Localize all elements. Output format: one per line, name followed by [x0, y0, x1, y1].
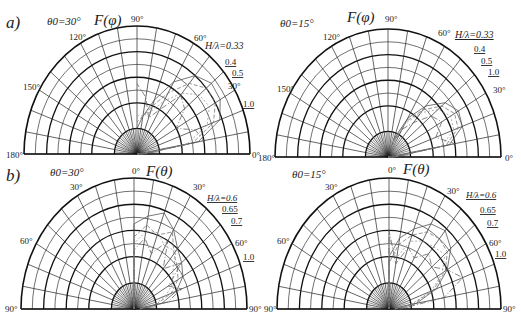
b-right-tick-l30: 30°: [325, 182, 338, 192]
b-left-legend-1: 0.65: [222, 204, 238, 214]
b-left-legend-0: H/λ=0.6: [206, 193, 238, 203]
b-left-tick-l90: 90°: [5, 304, 18, 314]
panel-b-label: b): [6, 166, 21, 185]
a-right-tick-30: 30°: [493, 85, 506, 95]
a-left-tick-30: 30°: [228, 81, 241, 91]
a-left-title: F(φ): [93, 12, 121, 29]
a-left-legend-1: 0.4: [225, 57, 237, 67]
a-right-tick-180: 180°: [258, 153, 276, 163]
a-left-legend-2: 0.5: [232, 68, 244, 78]
b-left-tick-r90: 90°: [249, 304, 262, 314]
b-left-tick-r60: 60°: [235, 238, 248, 248]
b-right-title: F(θ): [402, 161, 430, 178]
a-right-legend-3: 1.0: [488, 67, 500, 77]
a-left-condition: θ0=30°: [47, 15, 81, 27]
b-right-tick-0: 0°: [388, 165, 397, 175]
panel-a-label: a): [6, 13, 21, 32]
b-right-tick-r30: 30°: [447, 186, 460, 196]
b-right-legend-3: 1.0: [495, 249, 507, 259]
a-right-legend-0: H/λ=0.33: [454, 29, 494, 40]
b-left-tick-r30: 30°: [193, 182, 206, 192]
a-right-tick-120: 120°: [323, 32, 341, 42]
a-right-tick-90: 90°: [385, 14, 398, 24]
a-right-grid: [275, 29, 501, 157]
series-1.0: [134, 238, 182, 309]
b-right-tick-l90: 90°: [264, 304, 277, 314]
b-right-condition: θ0=15°: [292, 168, 326, 180]
a-left-tick-180: 180°: [6, 150, 24, 160]
a-right-tick-60: 60°: [438, 28, 451, 38]
b-right-tick-l60: 60°: [277, 236, 290, 246]
a-right-tick-150: 150°: [277, 84, 295, 94]
b-right-legend-0: H/λ=0.6: [465, 190, 497, 200]
b-right-tick-r60: 60°: [489, 238, 502, 248]
a-right-legend-1: 0.4: [474, 44, 486, 54]
a-left-legend-3: 1.0: [243, 99, 255, 109]
a-right-tick-0: 0°: [505, 153, 514, 163]
a-left-tick-150: 150°: [23, 82, 41, 92]
b-right-legend-2: 0.7: [487, 218, 499, 228]
a-left-tick-90: 90°: [131, 14, 144, 24]
series-0.65: [389, 232, 447, 309]
b-left-tick-0: 0°: [132, 166, 141, 176]
b-left-tick-l30: 30°: [70, 182, 83, 192]
polar-figure: a) θ0=30° F(φ) 90° 120° 150° 180° 60° 30…: [0, 0, 521, 323]
b-right-tick-r90: 90°: [503, 304, 516, 314]
b-left-tick-l60: 60°: [20, 236, 33, 246]
b-left-legend-3: 1.0: [243, 252, 255, 262]
a-left-tick-120: 120°: [69, 32, 87, 42]
a-right-condition: θ0=15°: [280, 17, 314, 29]
a-right-legend-2: 0.5: [481, 56, 493, 66]
b-left-condition: θ0=30°: [50, 166, 84, 178]
series-0.4: [137, 83, 215, 154]
b-left-title: F(θ): [145, 163, 173, 180]
a-left-legend-0: H/λ=0.33: [204, 40, 244, 51]
b-left-legend-2: 0.7: [231, 216, 243, 226]
b-right-legend-1: 0.65: [480, 205, 496, 215]
series-1.0: [389, 230, 463, 309]
a-right-title: F(φ): [346, 9, 374, 26]
